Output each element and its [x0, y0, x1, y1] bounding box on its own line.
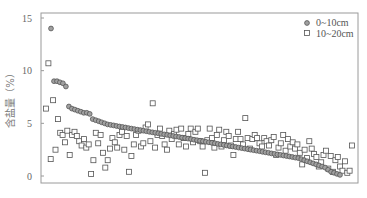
data-point-square: [82, 137, 87, 142]
data-point-square: [141, 141, 146, 146]
data-point-square: [131, 142, 136, 147]
data-point-square: [283, 148, 288, 153]
data-point-square: [105, 158, 110, 163]
data-point-square: [200, 144, 205, 149]
y-axis-label: 含盐量（%）: [4, 68, 16, 128]
y-tick-label: 15: [22, 13, 32, 24]
data-point-square: [103, 165, 108, 170]
data-point-square: [245, 136, 250, 141]
data-point-square: [342, 159, 347, 164]
data-point-square: [176, 142, 181, 147]
data-point-square: [271, 135, 276, 140]
data-point-circle: [49, 26, 54, 31]
data-point-square: [195, 126, 200, 131]
data-point-square: [188, 126, 193, 131]
data-point-square: [323, 148, 328, 153]
data-point-square: [63, 140, 68, 145]
data-point-square: [307, 139, 312, 144]
data-point-square: [278, 141, 283, 146]
data-point-square: [281, 132, 286, 137]
data-point-square: [115, 145, 120, 150]
data-point-square: [295, 142, 300, 147]
data-point-square: [286, 137, 291, 142]
data-point-square: [127, 169, 132, 174]
data-point-square: [96, 141, 101, 146]
data-point-square: [53, 147, 58, 152]
data-point-square: [233, 137, 238, 142]
data-point-square: [89, 171, 94, 176]
data-point-square: [67, 152, 72, 157]
data-point-square: [112, 140, 117, 145]
data-point-square: [146, 122, 151, 127]
data-point-square: [48, 157, 53, 162]
data-point-square: [79, 143, 84, 148]
y-tick-label: 10: [22, 65, 32, 76]
data-point-square: [55, 117, 60, 122]
legend-square-icon: [305, 31, 310, 36]
data-point-square: [148, 139, 153, 144]
data-point-square: [267, 143, 272, 148]
data-point-square: [297, 150, 302, 155]
data-point-square: [74, 134, 79, 139]
data-point-square: [309, 146, 314, 151]
data-point-square: [65, 128, 70, 133]
legend-label-10-20cm: 10~20cm: [316, 28, 354, 39]
data-point-square: [100, 150, 105, 155]
data-point-square: [202, 170, 207, 175]
data-point-square: [347, 168, 352, 173]
data-point-circle: [87, 112, 92, 117]
data-point-square: [122, 147, 127, 152]
data-point-square: [60, 132, 65, 137]
data-point-square: [98, 132, 103, 137]
data-point-square: [328, 154, 333, 159]
data-point-square: [259, 144, 264, 149]
legend-circle-icon: [305, 21, 310, 26]
data-point-square: [91, 158, 96, 163]
data-point-square: [217, 127, 222, 132]
data-point-square: [314, 155, 319, 160]
data-point-square: [44, 106, 49, 111]
data-point-square: [302, 147, 307, 152]
data-point-square: [108, 146, 113, 151]
data-point-square: [157, 126, 162, 131]
plot-frame: [41, 13, 358, 183]
data-point-square: [243, 116, 248, 121]
data-point-square: [238, 137, 243, 142]
y-tick-label: 5: [27, 118, 32, 129]
data-point-square: [124, 134, 129, 139]
data-point-square: [153, 145, 158, 150]
data-point-square: [165, 147, 170, 152]
data-point-square: [231, 152, 236, 157]
data-point-square: [335, 155, 340, 160]
data-point-square: [350, 143, 355, 148]
data-point-square: [236, 129, 241, 134]
data-point-square: [93, 130, 98, 135]
legend-label-0-10cm: 0~10cm: [316, 17, 349, 28]
data-point-square: [207, 126, 212, 131]
data-point-square: [162, 142, 167, 147]
y-tick-label: 0: [27, 171, 32, 182]
data-point-square: [179, 126, 184, 131]
data-point-square: [226, 134, 231, 139]
data-point-square: [290, 140, 295, 145]
data-point-square: [46, 61, 51, 66]
data-point-circle: [64, 84, 69, 89]
data-point-square: [129, 154, 134, 159]
data-point-square: [174, 127, 179, 132]
data-point-square: [119, 129, 124, 134]
data-point-square: [150, 101, 155, 106]
scatter-chart: 051015 含盐量（%） 0~10cm 10~20cm: [0, 0, 367, 198]
data-point-square: [214, 132, 219, 137]
data-point-circle: [338, 173, 343, 178]
data-point-square: [184, 144, 189, 149]
data-point-square: [186, 131, 191, 136]
data-point-square: [86, 142, 91, 147]
data-point-square: [255, 136, 260, 141]
data-point-square: [51, 98, 56, 103]
